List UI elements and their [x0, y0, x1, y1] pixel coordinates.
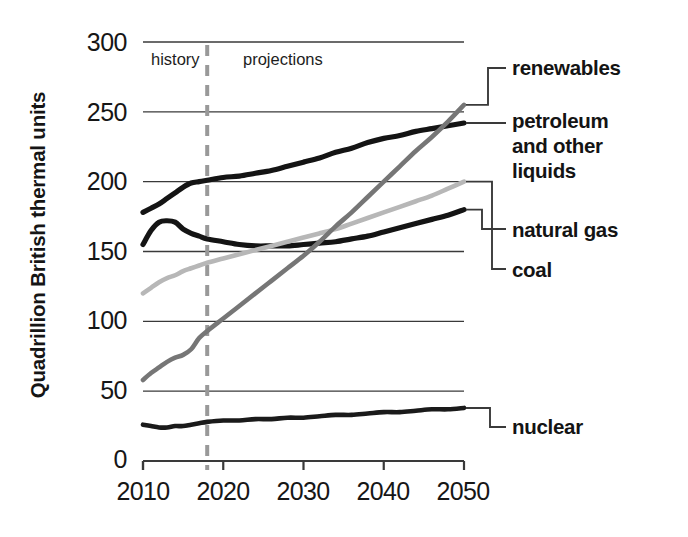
series-line-nuclear: [143, 408, 464, 428]
series-lines: [143, 105, 464, 428]
leader-nuclear: [466, 408, 506, 427]
gridlines: [143, 42, 464, 461]
leader-renewables: [466, 68, 506, 105]
leader-coal: [466, 182, 506, 269]
chart-figure: Quadrillion British thermal units 300 25…: [0, 0, 688, 537]
series-line-coal: [143, 182, 464, 294]
leader-natural-gas: [466, 210, 506, 229]
plot-area: [0, 0, 688, 537]
series-line-natural-gas: [143, 210, 464, 246]
axis-ticks: [143, 461, 464, 470]
callout-leader-lines: [466, 68, 506, 427]
